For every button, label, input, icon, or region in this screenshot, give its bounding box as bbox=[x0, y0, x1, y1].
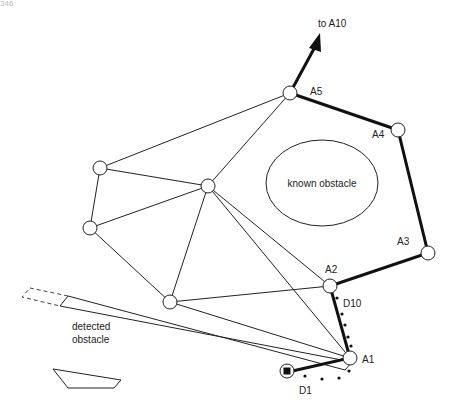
label-a1: A1 bbox=[362, 354, 375, 365]
node-a5 bbox=[283, 86, 297, 100]
node-lower bbox=[163, 295, 177, 309]
detected-obstacle-label-1: detected bbox=[72, 321, 110, 332]
node-center bbox=[201, 179, 215, 193]
label-a3: A3 bbox=[397, 236, 410, 247]
small-obstacle bbox=[53, 369, 121, 388]
label-a5: A5 bbox=[310, 86, 323, 97]
node-left-bottom bbox=[83, 221, 97, 235]
label-a4: A4 bbox=[372, 129, 385, 140]
node-a3 bbox=[421, 246, 435, 260]
label-d1: D1 bbox=[299, 385, 312, 396]
detected-obstacle-label-2: obstacle bbox=[72, 334, 110, 345]
node-a1 bbox=[343, 351, 357, 365]
node-a4 bbox=[391, 123, 405, 137]
page-number: 346 bbox=[0, 0, 14, 8]
label-a2: A2 bbox=[325, 264, 338, 275]
arrow-head-icon bbox=[309, 33, 321, 52]
path-planning-diagram: 346 known obstacle detected obstacle bbox=[0, 0, 454, 417]
known-obstacle-label: known obstacle bbox=[288, 178, 357, 189]
node-left-top bbox=[93, 161, 107, 175]
label-d10: D10 bbox=[343, 298, 362, 309]
robot-start-marker bbox=[284, 368, 291, 375]
planned-path bbox=[288, 33, 428, 372]
label-to-a10: to A10 bbox=[318, 18, 347, 29]
node-a2 bbox=[323, 279, 337, 293]
